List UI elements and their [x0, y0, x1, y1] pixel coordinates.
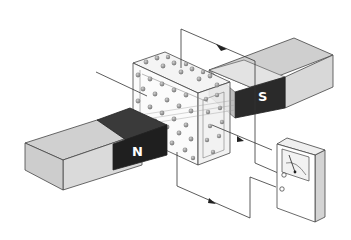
north-pole-label: N — [132, 144, 143, 159]
terminal-positive — [282, 173, 286, 177]
hall-effect-diagram: S — [0, 0, 351, 240]
south-pole-label: S — [258, 89, 267, 104]
voltmeter — [277, 138, 325, 222]
arrow-top-icon — [216, 44, 227, 51]
terminal-negative — [280, 187, 284, 191]
arrow-bottom-icon — [208, 198, 216, 204]
north-magnet: N — [25, 108, 167, 190]
